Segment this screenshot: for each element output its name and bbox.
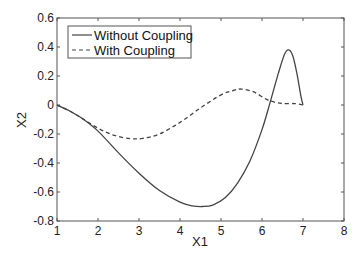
x-tick-label: 2 xyxy=(95,224,102,238)
y-tick-label: -0.6 xyxy=(33,185,54,199)
y-tick-label: -0.2 xyxy=(33,127,54,141)
x-tick-label: 7 xyxy=(300,224,307,238)
x-tick-label: 6 xyxy=(259,224,266,238)
x-axis-label: X1 xyxy=(192,234,208,249)
y-tick-label: 0.4 xyxy=(37,40,54,54)
x-tick-label: 8 xyxy=(341,224,348,238)
y-axis-label: X2 xyxy=(14,112,29,128)
y-tick-label: 0.2 xyxy=(37,69,54,83)
legend-label-with-coupling: With Coupling xyxy=(94,43,175,58)
x-tick-label: 1 xyxy=(54,224,61,238)
legend-label-without-coupling: Without Coupling xyxy=(94,28,193,43)
y-tick-label: 0.6 xyxy=(37,11,54,25)
y-tick-label: -0.8 xyxy=(33,214,54,228)
legend: Without Coupling With Coupling xyxy=(68,26,193,58)
x-tick-label: 4 xyxy=(177,224,184,238)
chart-canvas: 12345678 -0.8-0.6-0.4-0.200.20.40.6 With… xyxy=(0,0,362,259)
y-tick-label: 0 xyxy=(47,98,54,112)
x-tick-label: 3 xyxy=(136,224,143,238)
x-tick-label: 5 xyxy=(218,224,225,238)
y-tick-label: -0.4 xyxy=(33,156,54,170)
